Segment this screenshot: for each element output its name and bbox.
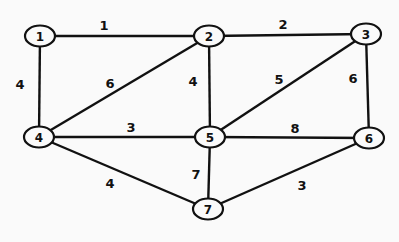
edge-weight-3-6: 6 [348, 71, 357, 86]
node-6: 6 [354, 128, 384, 149]
node-1: 1 [25, 26, 55, 47]
node-label: 4 [35, 131, 43, 145]
edge-weight-4-7: 4 [105, 176, 114, 191]
node-7: 7 [193, 199, 223, 220]
edge-6-7 [208, 138, 369, 209]
edge-5-6 [210, 137, 369, 138]
edge-weight-2-3: 2 [278, 17, 287, 32]
edge-weight-4-5: 3 [126, 120, 135, 135]
edge-3-5 [210, 34, 366, 137]
node-5: 5 [195, 127, 225, 148]
edge-1-4 [39, 36, 40, 137]
edge-2-5 [209, 36, 210, 137]
node-label: 7 [204, 203, 212, 217]
edge-weight-2-5: 4 [188, 74, 197, 89]
graph-diagram: 124645638473 1234567 [0, 0, 399, 242]
nodes-layer: 1234567 [24, 24, 384, 220]
node-label: 5 [206, 131, 214, 145]
edge-2-3 [209, 34, 366, 36]
node-2: 2 [194, 26, 224, 47]
edge-4-7 [39, 137, 208, 209]
edge-weight-1-2: 1 [99, 18, 108, 33]
edge-2-4 [39, 36, 209, 137]
edges-layer [39, 34, 369, 209]
edge-3-6 [366, 34, 369, 138]
edge-weight-5-7: 7 [191, 167, 200, 182]
edge-weight-6-7: 3 [297, 178, 306, 193]
node-label: 6 [365, 132, 373, 146]
node-3: 3 [351, 24, 381, 45]
node-4: 4 [24, 127, 54, 148]
node-label: 1 [36, 30, 44, 44]
edge-weight-3-5: 5 [274, 72, 283, 87]
node-label: 2 [205, 30, 213, 44]
node-label: 3 [362, 28, 370, 42]
edge-weight-1-4: 4 [15, 77, 24, 92]
edge-weight-2-4: 6 [105, 76, 114, 91]
edge-weight-5-6: 8 [290, 121, 299, 136]
